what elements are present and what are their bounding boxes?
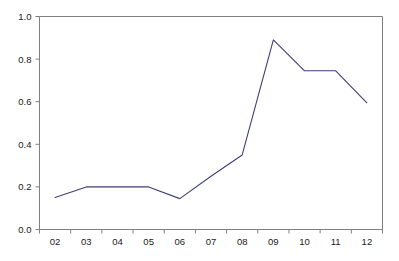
y-tick-label: 1.0 bbox=[18, 11, 31, 22]
y-tick-label: 0.6 bbox=[18, 96, 31, 107]
x-tick-label: 10 bbox=[299, 236, 310, 247]
x-tick-label: 04 bbox=[112, 236, 123, 247]
x-tick-label: 02 bbox=[50, 236, 61, 247]
x-tick-label: 07 bbox=[206, 236, 217, 247]
x-tick-label: 03 bbox=[81, 236, 92, 247]
y-tick-label: 0.4 bbox=[18, 139, 31, 150]
chart-background bbox=[0, 0, 399, 261]
y-tick-label: 0.2 bbox=[18, 181, 31, 192]
x-tick-label: 09 bbox=[268, 236, 279, 247]
y-tick-label: 0.8 bbox=[18, 54, 31, 65]
x-tick-label: 06 bbox=[175, 236, 186, 247]
line-chart: 0.00.20.40.60.81.0 020304050607080910111… bbox=[0, 0, 399, 261]
x-tick-label: 08 bbox=[237, 236, 248, 247]
chart-canvas: 0.00.20.40.60.81.0 020304050607080910111… bbox=[0, 0, 399, 261]
x-tick-label: 12 bbox=[362, 236, 373, 247]
x-tick-label: 11 bbox=[331, 236, 341, 247]
y-tick-label: 0.0 bbox=[18, 224, 31, 235]
x-tick-label: 05 bbox=[143, 236, 154, 247]
